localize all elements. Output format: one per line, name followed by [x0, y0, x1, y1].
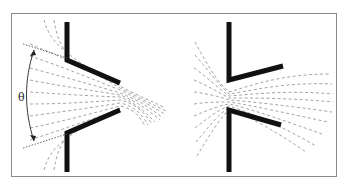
angle-indicator: θ: [18, 44, 67, 148]
nozzle-diagram: θ: [0, 0, 346, 185]
theta-label: θ: [18, 91, 25, 104]
left-flow-lines: [30, 20, 168, 170]
left-nozzle-walls: [67, 22, 120, 172]
right-flow-lines: [194, 42, 333, 156]
right-nozzle-walls: [229, 22, 283, 172]
